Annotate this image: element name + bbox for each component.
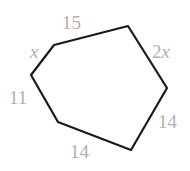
geometry-figure: 15 x 2x 11 14 14	[0, 0, 190, 171]
side-label-upper-left: x	[30, 42, 38, 61]
side-label-upper-right-coefficient: 2	[152, 41, 162, 62]
hexagon-outline	[31, 26, 167, 150]
side-label-upper-right: 2x	[152, 42, 170, 61]
side-label-lower-right: 14	[158, 112, 177, 131]
side-label-top: 15	[62, 13, 81, 32]
side-label-bottom: 14	[70, 142, 89, 161]
hexagon-shape	[0, 0, 190, 171]
side-label-left: 11	[9, 88, 27, 107]
side-label-upper-right-variable: x	[162, 41, 170, 62]
